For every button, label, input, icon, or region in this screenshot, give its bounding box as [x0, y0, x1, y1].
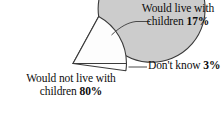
- slice-label-text: children: [147, 15, 184, 27]
- pie-chart: Would live with children 17% Don't know …: [0, 0, 221, 127]
- slice-label-line2: children 17%: [135, 15, 221, 28]
- slice-label-percent: 3%: [203, 59, 220, 71]
- slice-label-percent: 17%: [186, 15, 209, 27]
- pie-slice-dont-know[interactable]: [73, 64, 127, 71]
- slice-label-line1: Would live with: [135, 2, 221, 15]
- slice-label-would-live-with-children: Would live with children 17%: [135, 2, 221, 27]
- slice-label-percent: 80%: [79, 85, 102, 97]
- slice-label-dont-know: Don't know 3%: [148, 59, 220, 72]
- slice-label-line1: Would not live with: [9, 72, 133, 85]
- slice-label-would-not-live-with-children: Would not live with children 80%: [9, 72, 133, 97]
- slice-label-line2: children 80%: [9, 85, 133, 98]
- slice-label-text: Don't know: [148, 59, 201, 71]
- slice-label-text: children: [40, 85, 77, 97]
